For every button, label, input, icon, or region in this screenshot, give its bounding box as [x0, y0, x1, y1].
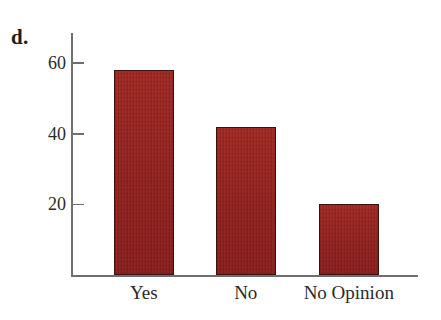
bar — [319, 204, 380, 275]
bar-chart-figure: d. 20 40 60 Yes No No Opinion — [0, 0, 441, 320]
y-tick-label: 60 — [48, 54, 66, 72]
y-tick-mark — [73, 62, 84, 64]
bar — [216, 127, 277, 275]
y-tick-mark — [73, 133, 84, 135]
category-label: No Opinion — [289, 283, 410, 302]
y-tick-mark — [73, 204, 84, 206]
y-axis-line — [71, 33, 73, 276]
plot-area: 20 40 60 Yes No No Opinion — [0, 0, 441, 320]
y-tick-label: 20 — [48, 195, 66, 213]
bar — [114, 70, 175, 275]
y-tick-label: 40 — [48, 125, 66, 143]
